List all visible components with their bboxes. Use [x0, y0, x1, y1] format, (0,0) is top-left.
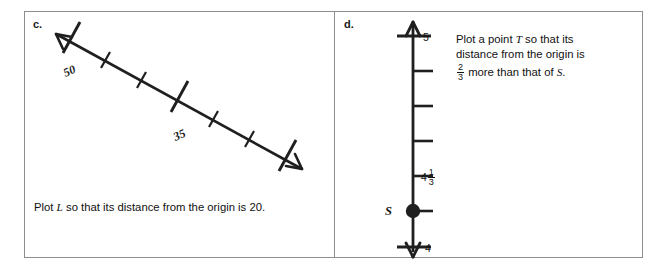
tick-label-5: 5	[423, 31, 429, 43]
caption-c: Plot L so that its distance from the ori…	[34, 200, 329, 215]
point-label-S: S	[385, 204, 392, 219]
panel-c: c.	[25, 12, 334, 257]
caption-d-line1-before: Plot a point	[456, 33, 516, 45]
caption-fraction-denominator: 3	[457, 72, 464, 82]
tick-label-4: 4	[425, 242, 431, 254]
caption-c-after: so that its distance from the origin is …	[63, 201, 265, 213]
fraction-numerator: 1	[428, 168, 435, 177]
caption-d-line3-end: .	[562, 66, 565, 78]
panel-d: d.	[334, 12, 644, 257]
fraction-denominator: 3	[428, 177, 435, 187]
mixed-fraction: 13	[428, 168, 435, 187]
caption-fraction-numerator: 2	[457, 63, 464, 72]
caption-d-line1-after: so that its	[522, 33, 574, 45]
tick-label-4-and-one-third: 413	[421, 168, 436, 187]
caption-c-before: Plot	[34, 201, 57, 213]
axis-line	[56, 34, 302, 169]
caption-d-line3-mid: more than that of	[465, 66, 557, 78]
plotted-point-S	[406, 204, 420, 218]
caption-d-line2: distance from the origin is	[456, 48, 585, 60]
major-tick-35	[171, 81, 188, 112]
mixed-whole: 4	[421, 171, 427, 183]
caption-d: Plot a point T so that its distance from…	[456, 32, 634, 82]
caption-fraction-two-thirds: 23	[457, 63, 464, 82]
worksheet-frame: c.	[24, 11, 643, 258]
